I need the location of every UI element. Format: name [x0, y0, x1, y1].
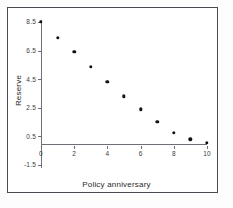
x-tick-label: 4 — [99, 150, 115, 157]
plot-area: 8.5 6.5 4.5 2.5 0.5 -1.5 0 2 4 6 8 10 Re… — [0, 0, 233, 208]
x-tick-mark — [174, 146, 175, 149]
y-tick-mark — [38, 51, 41, 52]
data-point — [89, 65, 92, 68]
y-tick-label: -1.5 — [12, 161, 36, 168]
x-tick-label: 8 — [166, 150, 182, 157]
data-point — [172, 131, 175, 134]
data-point — [205, 141, 208, 144]
x-tick-mark — [74, 146, 75, 149]
data-point — [155, 120, 158, 123]
data-point — [106, 80, 109, 83]
data-point — [56, 36, 59, 39]
x-tick-label: 0 — [33, 150, 49, 157]
x-tick-label: 6 — [133, 150, 149, 157]
x-axis-title: Policy anniversary — [0, 180, 233, 189]
y-axis-title: Reserve — [14, 51, 23, 131]
y-tick-label: 8.5 — [12, 18, 36, 25]
data-point — [189, 138, 192, 141]
data-point — [139, 108, 142, 111]
y-tick-mark — [38, 136, 41, 137]
data-point — [122, 95, 125, 98]
y-tick-label: 0.5 — [12, 133, 36, 140]
y-tick-mark — [38, 79, 41, 80]
x-axis-line — [41, 144, 207, 145]
y-tick-mark — [38, 108, 41, 109]
x-tick-mark — [107, 146, 108, 149]
x-tick-mark — [141, 146, 142, 149]
chart-figure: 8.5 6.5 4.5 2.5 0.5 -1.5 0 2 4 6 8 10 Re… — [0, 0, 233, 208]
y-tick-mark — [38, 165, 41, 166]
data-point — [72, 50, 75, 53]
x-tick-label: 2 — [66, 150, 82, 157]
x-tick-mark — [41, 146, 42, 149]
x-tick-label: 10 — [199, 150, 215, 157]
x-tick-mark — [207, 146, 208, 149]
